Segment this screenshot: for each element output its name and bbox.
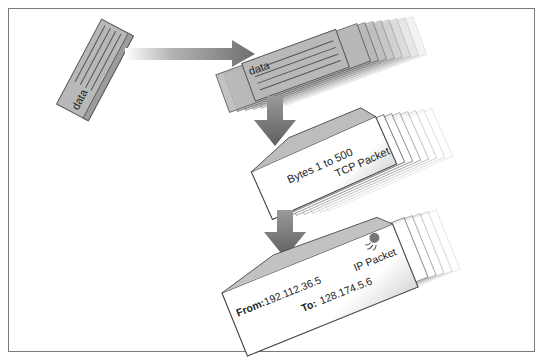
ip-packet-stack: From: 192.112.36.5 To: 128.174.5.6 IP Pa… xyxy=(216,209,460,356)
source-data-block: data xyxy=(57,19,134,121)
data-stack: data xyxy=(216,17,427,113)
split-arrow xyxy=(125,40,255,67)
encapsulation-diagram: data data xyxy=(0,0,545,361)
